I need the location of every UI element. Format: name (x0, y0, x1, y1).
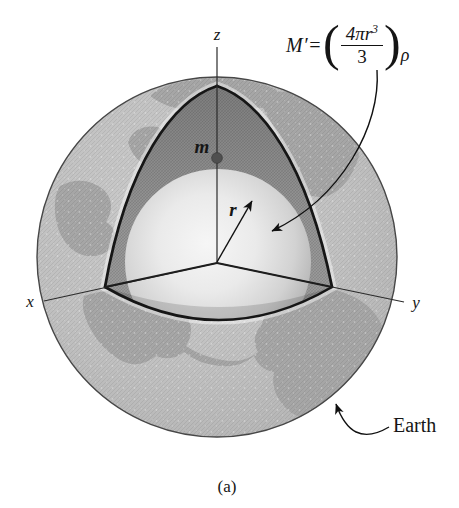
earth-label: Earth (393, 414, 436, 436)
z-axis-label: z (213, 25, 221, 44)
earth-pointer-arrow (336, 404, 389, 434)
formula-exponent: 3 (372, 22, 378, 36)
formula-denominator: 3 (357, 46, 367, 67)
x-axis-label: x (25, 292, 34, 311)
formula-numerator: 4πr3 (341, 24, 383, 46)
mass-point-label: m (195, 136, 210, 157)
formula-close-paren: ) (384, 23, 401, 64)
radius-label: r (229, 199, 237, 220)
figure-canvas: z x y m r Earth (a) M′= ( 4πr3 3 ) ρ (0, 0, 459, 508)
figure-caption: (a) (218, 477, 237, 496)
formula-density-subscript: ρ (401, 45, 410, 66)
formula-open-paren: ( (323, 23, 340, 64)
mass-formula: M′= ( 4πr3 3 ) ρ (286, 24, 409, 67)
mass-point-dot (212, 153, 223, 164)
formula-fraction: 4πr3 3 (341, 24, 383, 67)
formula-lhs: M′= (286, 34, 322, 57)
y-axis-label: y (410, 293, 420, 312)
earth-cutaway-diagram: z x y m r Earth (a) (0, 0, 459, 508)
formula-numerator-base: 4πr (346, 23, 372, 44)
